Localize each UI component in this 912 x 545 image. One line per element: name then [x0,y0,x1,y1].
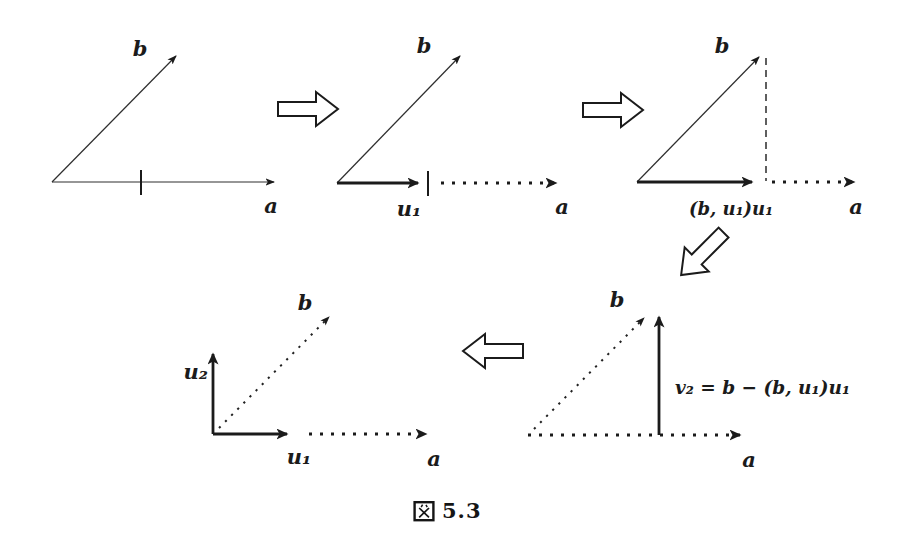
label-projection-step3: (b, u₁)u₁ [689,198,773,219]
dotted-vector-b-step4 [534,318,644,429]
label-b-step3: b [715,33,730,58]
transition-arrow-right-2 [583,93,643,127]
diagram-step4: b v₂ = b − (b, u₁)u₁ a [528,287,850,472]
label-a-step1: a [264,193,278,218]
figure-canvas: b a b u₁ a b (b, u₁)u₁ a [0,0,912,545]
right-arrow-icon [278,92,338,126]
kanji-zu-glyph [413,500,435,522]
label-formula-v2: v₂ = b − (b, u₁)u₁ [675,377,850,398]
gram-schmidt-diagram: b a b u₁ a b (b, u₁)u₁ a [0,0,912,545]
down-left-arrow-icon [669,221,735,287]
label-u1-step5: u₁ [287,444,311,469]
diagram-step1: b a [52,36,278,218]
label-b-step5: b [298,290,313,315]
label-b-step4: b [610,287,625,312]
dotted-vector-b-step5 [219,317,329,428]
transition-arrow-down-left [669,221,735,287]
caption-number: 5.3 [442,498,482,523]
label-a-step4: a [742,447,756,472]
vector-b-step1 [52,56,176,182]
label-a-step2: a [555,194,569,219]
label-b-step2: b [417,33,432,58]
label-a-step5: a [427,446,441,471]
diagram-step3: b (b, u₁)u₁ a [637,33,863,219]
diagram-step5: u₂ b u₁ a [184,290,441,471]
transition-arrow-left [463,334,523,368]
diagram-step2: b u₁ a [337,33,569,221]
label-b-step1: b [133,36,148,61]
label-u2-step5: u₂ [184,359,208,384]
transition-arrow-right-1 [278,92,338,126]
right-arrow-icon [583,93,643,127]
left-arrow-icon [463,334,523,368]
label-u1-step2: u₁ [397,196,421,221]
vector-b-step2 [337,56,460,183]
figure-caption: 5.3 [413,498,482,523]
label-a-step3: a [849,194,863,219]
vector-b-step3 [637,57,759,182]
